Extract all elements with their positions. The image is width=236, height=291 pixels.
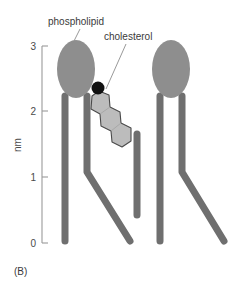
axis-tick-label-0: 0 xyxy=(30,238,36,249)
axis-title-nm: nm xyxy=(12,138,23,152)
phospholipid-right-head xyxy=(152,40,190,98)
lipid-bilayer-diagram: 3 2 1 0 nm xyxy=(0,0,236,291)
phospholipid-right xyxy=(152,40,224,241)
axis-tick-label-3: 3 xyxy=(30,41,36,52)
phospholipid-left-head xyxy=(57,40,95,98)
y-axis: 3 2 1 0 nm xyxy=(12,41,48,249)
figure-panel-b: 3 2 1 0 nm xyxy=(0,0,236,291)
panel-label: (B) xyxy=(14,266,27,277)
leader-line-cholesterol xyxy=(106,44,126,89)
axis-tick-label-1: 1 xyxy=(30,172,36,183)
hydroxyl-group-icon xyxy=(92,82,105,95)
phospholipid-right-tails xyxy=(160,96,224,241)
axis-tick-label-2: 2 xyxy=(30,106,36,117)
label-phospholipid: phospholipid xyxy=(48,16,104,27)
label-cholesterol: cholesterol xyxy=(104,31,152,42)
tail-kinked xyxy=(182,96,224,241)
cholesterol-molecule xyxy=(91,82,131,148)
steroid-ring-system xyxy=(91,91,131,147)
